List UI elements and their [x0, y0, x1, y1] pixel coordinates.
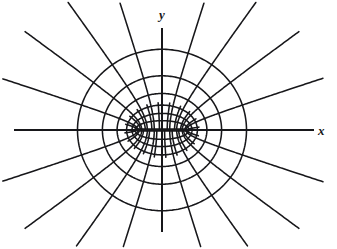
confocal-hyperbola: [123, 130, 154, 247]
x-axis-label: x: [318, 124, 325, 137]
confocal-hyperbola: [158, 103, 159, 130]
confocal-coordinate-plot: [0, 0, 337, 249]
y-axis-label: y: [159, 8, 165, 21]
confocal-hyperbola: [170, 3, 204, 130]
elliptic-coordinate-figure: x y: [0, 0, 337, 249]
confocal-hyperbola: [165, 130, 166, 157]
